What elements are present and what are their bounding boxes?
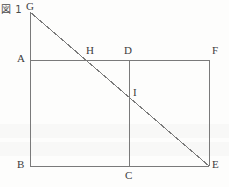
vertex-label-d: D: [124, 45, 132, 56]
vertex-label-h: H: [86, 45, 94, 56]
geometry-figure: 図 1 GABCDEFHI: [0, 0, 229, 187]
vertex-label-g: G: [26, 1, 34, 12]
vertex-label-a: A: [17, 53, 25, 64]
vertex-label-f: F: [212, 45, 218, 56]
segment-layer: [30, 12, 209, 166]
vertex-label-b: B: [17, 159, 24, 170]
diagonal-segment-g-e: [30, 12, 209, 166]
vertex-label-i: I: [133, 87, 137, 98]
vertex-label-e: E: [212, 159, 219, 170]
geometry-canvas: [0, 0, 229, 187]
vertex-label-c: C: [125, 170, 132, 181]
